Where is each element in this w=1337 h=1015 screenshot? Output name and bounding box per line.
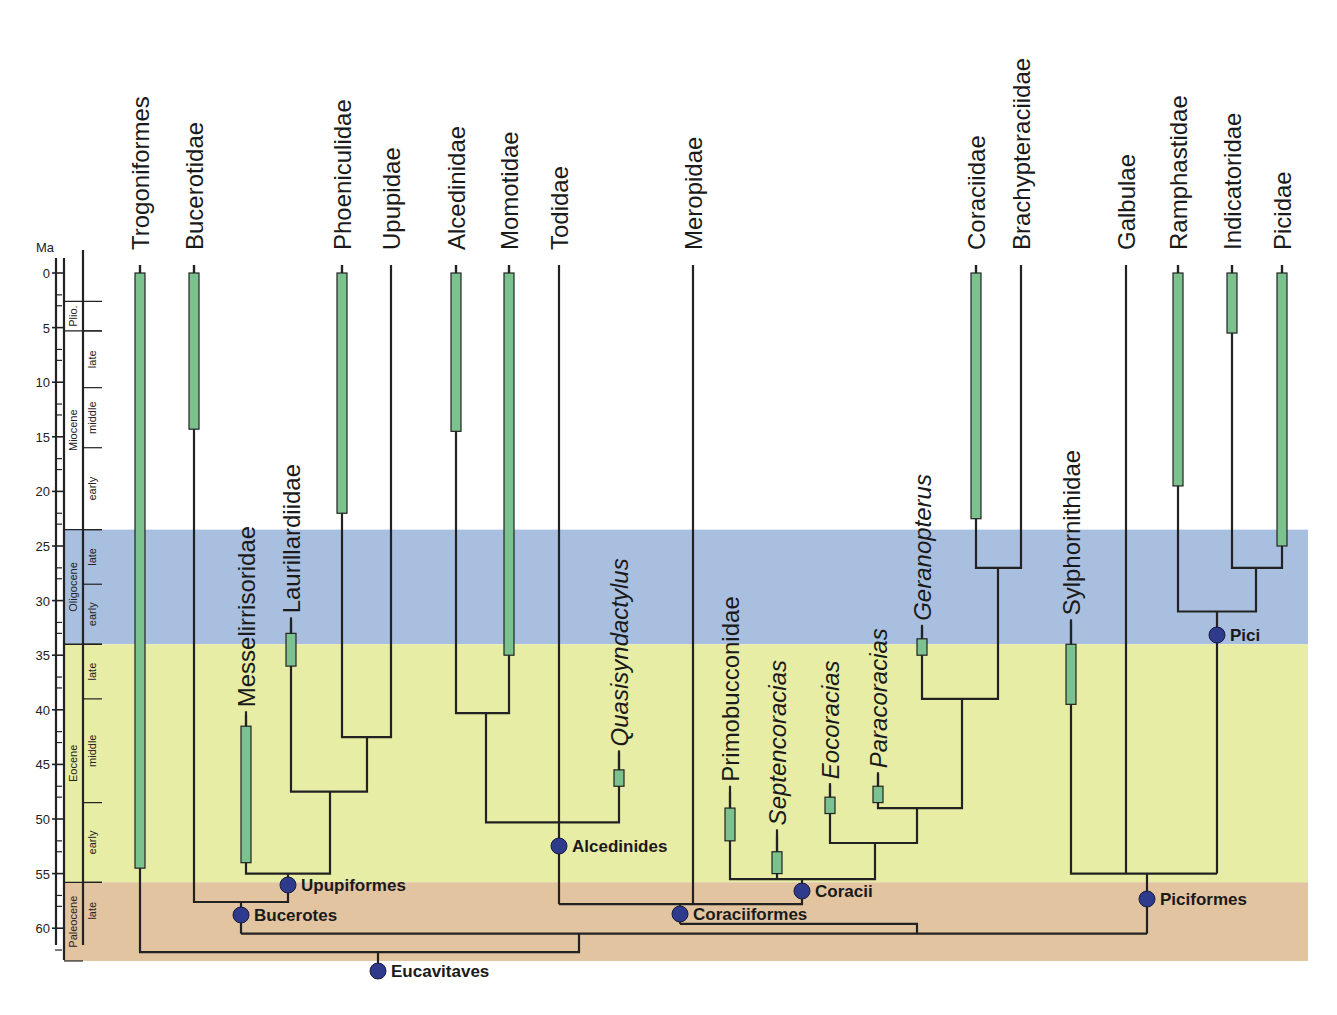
epoch-label-oligocene: Oligocene [67,562,79,612]
node-marker-icon [370,963,386,979]
subepoch-label: late [86,902,98,920]
subepoch-label: early [86,602,98,626]
axis-unit-label: Ma [36,240,55,255]
tick-label-10: 10 [36,375,50,390]
epoch-label-miocene: Miocene [67,409,79,451]
node-label: Coracii [815,882,873,901]
subepoch-label: late [86,663,98,681]
fossil-range-messelirrisoridae [241,726,251,863]
node-coraciiformes: Coraciiformes [672,905,807,924]
taxon-label-trogoniformes: Trogoniformes [127,96,154,250]
node-eucavitaves: Eucavitaves [370,962,489,981]
epoch-label-plio: Plio. [67,305,79,326]
taxon-label-sylphornithidae: Sylphornithidae [1058,450,1085,615]
node-label: Bucerotes [254,906,337,925]
taxon-label-messelirrisoridae: Messelirrisoridae [233,526,260,707]
node-marker-icon [280,877,296,893]
taxon-label-meropidae: Meropidae [680,137,707,250]
node-label: Piciformes [1160,890,1247,909]
subepoch-label: early [86,476,98,500]
node-marker-icon [551,838,567,854]
taxon-label-geranopterus: Geranopterus [909,474,936,621]
taxon-label-quasisyndactylus: Quasisyndactylus [606,558,633,746]
taxon-label-brachypteraciidae: Brachypteraciidae [1008,58,1035,250]
node-label: Upupiformes [301,876,406,895]
epoch-label-eocene: Eocene [67,745,79,782]
node-marker-icon [794,883,810,899]
subepoch-label: early [86,830,98,854]
fossil-range-quasisyndactylus [614,770,624,786]
fossil-range-septencoracias [772,852,782,874]
subepoch-label: middle [86,735,98,767]
branch-indicatoridae-picidae [1232,265,1282,568]
taxon-label-bucerotidae: Bucerotidae [181,122,208,250]
fossil-range-coraciidae [971,273,981,519]
subepoch-label: late [86,350,98,368]
node-pici: Pici [1209,626,1260,645]
node-label: Alcedinides [572,837,667,856]
node-coracii: Coracii [794,882,873,901]
tick-label-0: 0 [43,266,50,281]
fossil-range-momotidae [504,273,514,655]
taxon-label-septencoracias: Septencoracias [764,660,791,825]
taxon-label-galbulae: Galbulae [1113,154,1140,250]
tick-label-55: 55 [36,867,50,882]
band-paleocene [64,882,1308,961]
tick-label-50: 50 [36,812,50,827]
node-label: Coraciiformes [693,905,807,924]
taxon-label-alcedinidae: Alcedinidae [443,126,470,250]
fossil-range-trogoniformes [135,273,145,868]
taxon-label-ramphastidae: Ramphastidae [1165,95,1192,250]
tick-label-35: 35 [36,648,50,663]
fossil-range-paracoracias [873,786,883,802]
taxon-label-picidae: Picidae [1269,171,1296,250]
tick-label-15: 15 [36,430,50,445]
tick-label-45: 45 [36,757,50,772]
tick-label-20: 20 [36,484,50,499]
taxon-label-coraciidae: Coraciidae [963,135,990,250]
fossil-range-eocoracias [825,797,835,813]
subepoch-label: middle [86,401,98,433]
tick-label-60: 60 [36,921,50,936]
fossil-range-phoeniculidae [337,273,347,513]
node-marker-icon [672,906,688,922]
tick-label-30: 30 [36,594,50,609]
taxon-label-phoeniculidae: Phoeniculidae [329,99,356,250]
taxon-label-todidae: Todidae [546,166,573,250]
fossil-range-primobucconidae [725,808,735,841]
fossil-range-picidae [1277,273,1287,546]
node-label: Pici [1230,626,1260,645]
node-marker-icon [233,907,249,923]
node-label: Eucavitaves [391,962,489,981]
node-marker-icon [1209,627,1225,643]
fossil-range-bucerotidae [189,273,199,429]
taxon-label-momotidae: Momotidae [496,131,523,250]
fossil-range-sylphornithidae [1066,644,1076,704]
taxon-label-primobucconidae: Primobucconidae [717,596,744,781]
taxon-label-indicatoridae: Indicatoridae [1219,113,1246,250]
epoch-label-paleocene: Paleocene [67,896,79,948]
tick-label-40: 40 [36,703,50,718]
tick-label-5: 5 [43,321,50,336]
subepoch-label: late [86,548,98,566]
fossil-range-geranopterus [917,639,927,655]
fossil-range-indicatoridae [1227,273,1237,333]
branch-coraciidae-brachypteraciidae [976,265,1021,568]
fossil-range-alcedinidae [451,273,461,431]
taxon-label-eocoracias: Eocoracias [817,660,844,779]
fossil-range-ramphastidae [1173,273,1183,486]
taxon-label-laurillardiidae: Laurillardiidae [278,464,305,613]
fossil-range-laurillardiidae [286,633,296,666]
taxon-label-upupidae: Upupidae [378,147,405,250]
taxon-label-paracoracias: Paracoracias [865,628,892,768]
node-marker-icon [1139,891,1155,907]
phylogenetic-timetree: Ma051015202530354045505560Plio.Miocenela… [0,0,1337,1015]
tick-label-25: 25 [36,539,50,554]
